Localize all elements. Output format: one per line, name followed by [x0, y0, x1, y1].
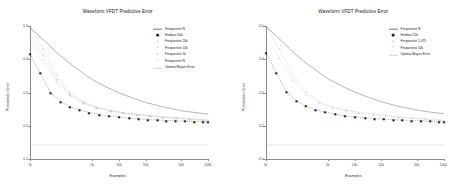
y-axis-tick-label: 0.5 [259, 24, 264, 28]
series-marker: ◇ [56, 81, 59, 85]
series-marker: ■ [29, 53, 32, 56]
x-axis-tick-label: 1k [28, 163, 32, 167]
y-axis-tick-label: 0.4 [23, 57, 28, 61]
series-marker: + [371, 112, 374, 116]
series-marker: ■ [128, 117, 131, 120]
series-marker: ■ [295, 100, 298, 103]
x-axis-tick [266, 159, 267, 161]
panel-title: Waveform VFDT Predictive Error [236, 9, 471, 14]
series-marker: ■ [184, 120, 187, 123]
series-marker: ■ [193, 121, 196, 124]
x-axis-tick [381, 159, 382, 161]
y-axis-tick-label: 0.4 [259, 57, 264, 61]
series-marker: ■ [78, 109, 81, 112]
series-marker: △ [277, 47, 280, 51]
series-marker: + [384, 114, 387, 118]
x-axis-tick [355, 159, 356, 161]
y-axis-label: Probabilistic Error [242, 82, 246, 110]
series-marker: ■ [363, 117, 366, 120]
legend-item[interactable]: Optimal Bayes Error [152, 64, 195, 70]
series-marker: ■ [165, 120, 168, 123]
series-marker: ◇ [42, 61, 45, 65]
x-axis-tick [444, 159, 445, 161]
legend-item-label: Frequentist 20k [165, 40, 188, 43]
series-marker: ◇ [29, 41, 32, 45]
legend-item-label: Holdout 50k [401, 34, 419, 37]
legend-left: Frequentist N■Holdout 50k△Frequentist 20… [152, 26, 195, 71]
y-axis-tick-label: 0.5 [23, 24, 28, 28]
x-axis-tick-label: 20k [379, 163, 384, 167]
series-marker: + [397, 115, 400, 119]
legend-item-label: Frequentist N [401, 28, 421, 31]
legend-key-icon [388, 52, 399, 58]
series-marker: ■ [156, 119, 159, 122]
x-axis-tick-label: 20k [143, 163, 148, 167]
series-marker: ■ [373, 118, 376, 121]
series-marker: + [318, 101, 321, 105]
series-marker: ■ [392, 119, 395, 122]
series-marker: + [29, 31, 32, 35]
series-marker: + [277, 56, 280, 60]
series-marker: △ [291, 73, 294, 77]
legend-item-label: Frequentist 50k [401, 47, 424, 50]
series-marker: + [357, 111, 360, 115]
x-axis-tick-label: 10k [116, 163, 121, 167]
x-axis-tick-label: 50k [414, 163, 419, 167]
series-marker: ■ [88, 112, 91, 115]
series-marker: ◇ [95, 106, 98, 110]
series-marker: ■ [49, 92, 52, 95]
series-marker: ■ [334, 113, 337, 116]
series-marker: ■ [146, 119, 149, 122]
series-marker: ■ [304, 105, 307, 108]
series-marker: ■ [343, 115, 346, 118]
series-marker: ■ [274, 72, 277, 75]
legend-item-label: Frequentist N [165, 28, 185, 31]
series-marker: + [264, 34, 267, 38]
x-axis-label: Examples [0, 174, 236, 178]
series-marker: ■ [382, 118, 385, 121]
x-axis-tick [417, 159, 418, 161]
series-marker: ■ [108, 115, 111, 118]
series-marker: ■ [419, 120, 422, 123]
legend-item-label: Frequentist 10k [165, 47, 188, 50]
x-axis-tick [208, 159, 209, 161]
y-axis-tick-label: 0.1 [23, 157, 28, 161]
legend-item[interactable]: Optimal Bayes Error [388, 52, 431, 58]
legend-item-label: Optimal Bayes Error [401, 53, 431, 56]
x-axis-tick-label: 5k [326, 163, 330, 167]
series-marker: ■ [314, 109, 317, 112]
legend-item-label: Optimal Bayes Error [165, 66, 195, 69]
series-marker: ◇ [148, 114, 151, 118]
legend-right: Frequentist N■Holdout 50k△Frequentist 1.… [388, 26, 431, 58]
x-axis-tick [181, 159, 182, 161]
series-marker: + [42, 53, 45, 57]
x-axis-tick-label: 50k [178, 163, 183, 167]
series-marker: ■ [428, 120, 431, 123]
series-marker: ■ [137, 118, 140, 121]
x-axis-tick-label: 5k [90, 163, 94, 167]
legend-item-label: Frequentist 1.075 [401, 40, 427, 43]
x-axis-tick-label: 100k [440, 163, 447, 167]
y-axis-tick-label: 0.3 [259, 91, 264, 95]
legend-key-icon [152, 64, 163, 70]
series-line [266, 53, 444, 121]
y-axis-tick-label: 0.1 [259, 157, 264, 161]
series-marker: ■ [323, 111, 326, 114]
x-axis-tick [146, 159, 147, 161]
series-marker: ■ [401, 119, 404, 122]
series-marker: ■ [285, 91, 288, 94]
series-marker: + [331, 106, 334, 110]
series-marker: ◇ [207, 118, 210, 122]
legend-item-label: Frequentist 5k [165, 53, 186, 56]
x-axis-label: Examples [236, 174, 471, 178]
x-axis-tick [328, 159, 329, 161]
series-marker: ■ [59, 101, 62, 104]
series-marker: ■ [264, 52, 267, 55]
y-axis-tick-label: 0.2 [259, 124, 264, 128]
series-marker: ■ [353, 116, 356, 119]
x-axis-tick-label: 1k [264, 163, 268, 167]
chart-panel-right: Waveform VFDT Predictive Error Probabili… [236, 0, 471, 193]
series-marker: ■ [98, 114, 101, 117]
x-axis-tick [92, 159, 93, 161]
series-marker: ◇ [122, 111, 125, 115]
